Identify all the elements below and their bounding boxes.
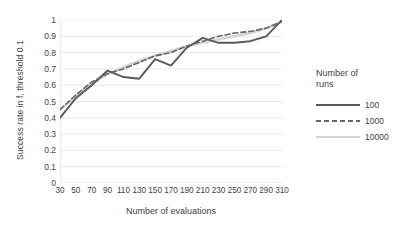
x-tick-label: 290 [259, 186, 273, 195]
legend: Number of runs 100100010000 [316, 68, 400, 146]
y-tick-label: 0.7 [44, 64, 56, 74]
x-tick-label: 90 [103, 186, 112, 195]
x-tick-label: 190 [180, 186, 194, 195]
x-tick-label: 170 [164, 186, 178, 195]
legend-label-100: 100 [365, 100, 379, 110]
x-axis-tick-labels: 3050709011013015017019021023025027029031… [60, 186, 282, 202]
legend-swatch-100 [316, 100, 360, 110]
legend-title: Number of runs [316, 68, 378, 90]
legend-entries: 100100010000 [316, 98, 400, 143]
y-tick-label: 0.2 [44, 145, 56, 155]
legend-entry-1000[interactable]: 1000 [316, 114, 400, 127]
x-tick-label: 230 [212, 186, 226, 195]
y-tick-label: 0.9 [44, 31, 56, 41]
legend-entry-100[interactable]: 100 [316, 98, 400, 111]
y-tick-label: 0.1 [44, 162, 56, 172]
x-tick-label: 210 [196, 186, 210, 195]
x-tick-label: 50 [71, 186, 80, 195]
x-tick-label: 130 [132, 186, 146, 195]
legend-swatch-10000 [316, 132, 360, 142]
y-tick-label: 1 [51, 15, 56, 25]
legend-label-1000: 1000 [365, 116, 384, 126]
plot-area [60, 20, 282, 183]
legend-entry-10000[interactable]: 10000 [316, 130, 400, 143]
x-tick-label: 270 [243, 186, 257, 195]
y-axis-title: Success rate in f, threshold 0.1 [15, 12, 25, 188]
y-axis-tick-labels: 00.10.20.30.40.50.60.70.80.91 [26, 12, 56, 192]
x-tick-label: 70 [87, 186, 96, 195]
y-tick-label: 0.4 [44, 113, 56, 123]
y-tick-label: 0.5 [44, 97, 56, 107]
legend-label-10000: 10000 [365, 132, 389, 142]
x-tick-label: 30 [55, 186, 64, 195]
plot-svg [60, 20, 282, 183]
x-axis-title: Number of evaluations [60, 206, 282, 216]
x-tick-label: 250 [228, 186, 242, 195]
x-tick-label: 150 [148, 186, 162, 195]
x-tick-label: 310 [275, 186, 289, 195]
y-tick-label: 0.8 [44, 48, 56, 58]
x-tick-label: 110 [117, 186, 130, 195]
y-tick-label: 0.6 [44, 80, 56, 90]
chart-container: Success rate in f, threshold 0.1 00.10.2… [0, 0, 402, 235]
y-tick-label: 0.3 [44, 129, 56, 139]
legend-swatch-1000 [316, 116, 360, 126]
